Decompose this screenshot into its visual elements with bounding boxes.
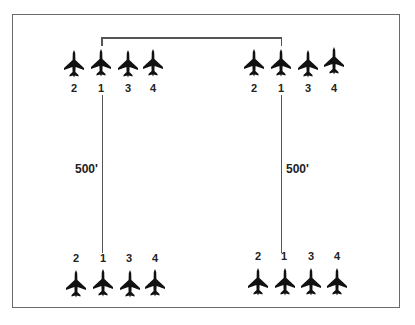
aircraft-icon — [243, 49, 265, 77]
aircraft-label: 1 — [92, 252, 114, 264]
aircraft-icon — [274, 268, 296, 296]
aircraft-icon — [119, 270, 141, 298]
aircraft-label: 2 — [65, 252, 87, 264]
aircraft-icon — [142, 49, 164, 77]
left-distance-label: 500' — [75, 162, 98, 176]
right-vertical-spacing-line — [281, 95, 282, 253]
aircraft-label: 3 — [300, 250, 322, 262]
aircraft-icon — [300, 268, 322, 296]
aircraft-icon — [65, 270, 87, 298]
aircraft-label: 4 — [326, 250, 348, 262]
aircraft-icon — [117, 50, 139, 78]
aircraft-icon — [297, 50, 319, 78]
aircraft-label: 4 — [144, 252, 166, 264]
aircraft-icon — [270, 49, 292, 77]
aircraft-icon — [247, 268, 269, 296]
top-left-connector-drop — [101, 37, 103, 46]
aircraft-label: 2 — [243, 82, 265, 94]
aircraft-icon — [90, 49, 112, 77]
aircraft-label: 3 — [297, 82, 319, 94]
top-right-connector-drop — [281, 37, 283, 46]
aircraft-label: 2 — [247, 250, 269, 262]
aircraft-icon — [63, 50, 85, 78]
aircraft-icon — [323, 47, 345, 75]
aircraft-icon — [144, 269, 166, 297]
aircraft-label: 3 — [118, 252, 140, 264]
left-vertical-spacing-line — [102, 95, 103, 253]
aircraft-label: 2 — [63, 82, 85, 94]
aircraft-icon — [326, 268, 348, 296]
aircraft-label: 1 — [273, 250, 295, 262]
aircraft-label: 1 — [90, 82, 112, 94]
top-connector-line — [101, 37, 282, 39]
right-distance-label: 500' — [286, 162, 309, 176]
aircraft-label: 4 — [323, 82, 345, 94]
aircraft-label: 1 — [270, 82, 292, 94]
aircraft-label: 3 — [117, 82, 139, 94]
aircraft-label: 4 — [142, 82, 164, 94]
aircraft-icon — [92, 269, 114, 297]
